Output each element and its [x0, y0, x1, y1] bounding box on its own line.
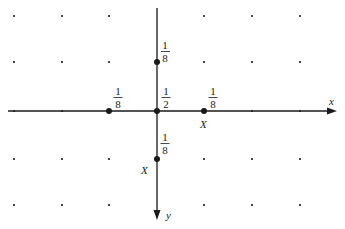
- x-axis: [8, 108, 337, 115]
- label-left: 1 8: [114, 85, 123, 110]
- node-left: [106, 108, 112, 114]
- svg-text:8: 8: [162, 144, 168, 156]
- lattice-diagram: x y 1 8 1 2 1 8 1 8 1 8 X X: [0, 0, 345, 229]
- node-right: [201, 108, 207, 114]
- label-right: 1 8: [209, 85, 218, 110]
- svg-text:1: 1: [210, 85, 216, 97]
- y-axis-label: y: [165, 209, 171, 221]
- x-axis-arrow-icon: [327, 108, 337, 115]
- svg-text:1: 1: [163, 85, 169, 97]
- node-origin: [154, 108, 160, 114]
- svg-text:8: 8: [115, 98, 121, 110]
- node-down: [154, 156, 160, 162]
- label-up: 1 8: [161, 39, 170, 64]
- y-axis-arrow-icon: [154, 210, 161, 220]
- svg-text:8: 8: [210, 98, 216, 110]
- label-origin: 1 2: [162, 85, 171, 110]
- marker-down: X: [140, 164, 149, 176]
- svg-text:1: 1: [162, 39, 168, 51]
- svg-text:8: 8: [162, 52, 168, 64]
- marker-right: X: [199, 118, 208, 130]
- svg-text:1: 1: [115, 85, 121, 97]
- node-up: [154, 59, 160, 65]
- label-down: 1 8: [161, 131, 170, 156]
- x-axis-label: x: [328, 95, 334, 107]
- svg-text:1: 1: [162, 131, 168, 143]
- svg-text:2: 2: [163, 98, 169, 110]
